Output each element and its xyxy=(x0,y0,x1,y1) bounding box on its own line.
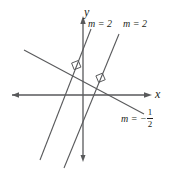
slope-fraction-one-half: 12 xyxy=(147,108,154,129)
x-axis xyxy=(12,92,152,98)
y-axis-label: y xyxy=(84,6,89,18)
x-axis-label: x xyxy=(155,88,160,100)
graph-line-3 xyxy=(24,50,144,114)
x-axis-arrow-right-icon xyxy=(144,92,152,98)
slope-label-line-1: m = 2 xyxy=(88,19,112,29)
y-axis-arrow-down-icon xyxy=(81,155,86,162)
slope-label-line-3: m = −12 xyxy=(121,109,153,130)
y-axis xyxy=(80,16,85,162)
fraction-numerator: 1 xyxy=(147,108,154,118)
fraction-denominator: 2 xyxy=(147,119,154,129)
graph-line-2 xyxy=(64,34,119,168)
geometry-figure: y x m = 2 m = 2 m = −12 xyxy=(0,0,169,176)
slope-label-line-2: m = 2 xyxy=(123,19,147,29)
slope-label-line-3-prefix: m = − xyxy=(121,113,147,124)
x-axis-arrow-left-icon xyxy=(12,92,19,98)
